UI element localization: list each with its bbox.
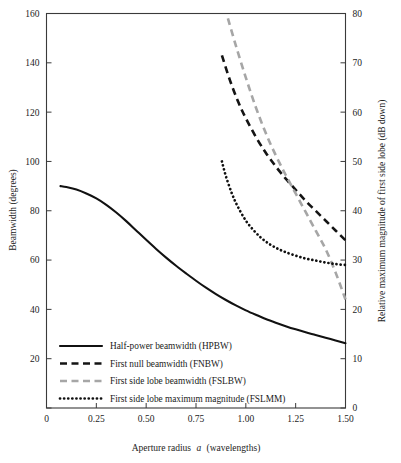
left-tick-label: 120	[25, 108, 40, 118]
right-tick-label: 70	[353, 58, 363, 68]
legend-label-1: First null beamwidth (FNBW)	[110, 359, 223, 370]
right-tick-label: 0	[353, 403, 358, 413]
left-axis-tick-labels: 20406080100120140160	[25, 9, 40, 364]
left-tick-label: 100	[25, 157, 40, 167]
left-axis-ticks	[47, 14, 52, 409]
series-curve-3	[222, 161, 346, 265]
left-tick-label: 80	[30, 206, 40, 216]
right-tick-label: 60	[353, 108, 363, 118]
y-axis-title: Beamwidth (degrees)	[8, 169, 19, 251]
x-axis-title: Aperture radius a (wavelengths)	[132, 443, 261, 454]
series-curve-2	[228, 18, 346, 299]
x-tick-label: 0	[44, 414, 49, 424]
right-axis-ticks	[341, 14, 346, 409]
x-tick-label: 1.25	[287, 414, 304, 424]
left-tick-label: 60	[30, 255, 40, 265]
x-axis-title-variable: a	[196, 443, 201, 453]
x-axis-title-tail: (wavelengths)	[207, 443, 261, 454]
legend-label-3: First side lobe maximum magnitude (FSLMM…	[110, 394, 285, 405]
right-tick-label: 10	[353, 354, 363, 364]
chart-figure: 20406080100120140160 01020304050607080 0…	[0, 0, 401, 463]
right-axis-tick-labels: 01020304050607080	[353, 9, 363, 414]
left-tick-label: 160	[25, 9, 40, 19]
left-tick-label: 20	[30, 354, 40, 364]
beamwidth-chart: 20406080100120140160 01020304050607080 0…	[0, 0, 401, 463]
x-tick-label: 0.75	[188, 414, 205, 424]
chart-legend: Half-power beamwidth (HPBW)First null be…	[60, 341, 285, 405]
x-axis-tick-labels: 00.250.500.751.001.251.50	[44, 414, 354, 424]
x-tick-label: 1.50	[337, 414, 354, 424]
left-tick-label: 40	[30, 305, 40, 315]
data-curves	[60, 18, 345, 343]
x-tick-label: 0.25	[88, 414, 105, 424]
x-tick-label: 1.00	[238, 414, 255, 424]
right-tick-label: 40	[353, 206, 363, 216]
series-curve-0	[60, 186, 345, 343]
right-tick-label: 30	[353, 255, 363, 265]
right-tick-label: 50	[353, 157, 363, 167]
x-axis-title-lead: Aperture radius	[132, 443, 192, 453]
x-tick-label: 0.50	[138, 414, 155, 424]
left-tick-label: 140	[25, 58, 40, 68]
y-axis-right-title: Relative maximum magnitude of first side…	[377, 100, 388, 323]
legend-label-2: First side lobe beamwidth (FSLBW)	[110, 376, 246, 387]
right-tick-label: 80	[353, 9, 363, 19]
right-tick-label: 20	[353, 305, 363, 315]
legend-label-0: Half-power beamwidth (HPBW)	[110, 341, 232, 352]
